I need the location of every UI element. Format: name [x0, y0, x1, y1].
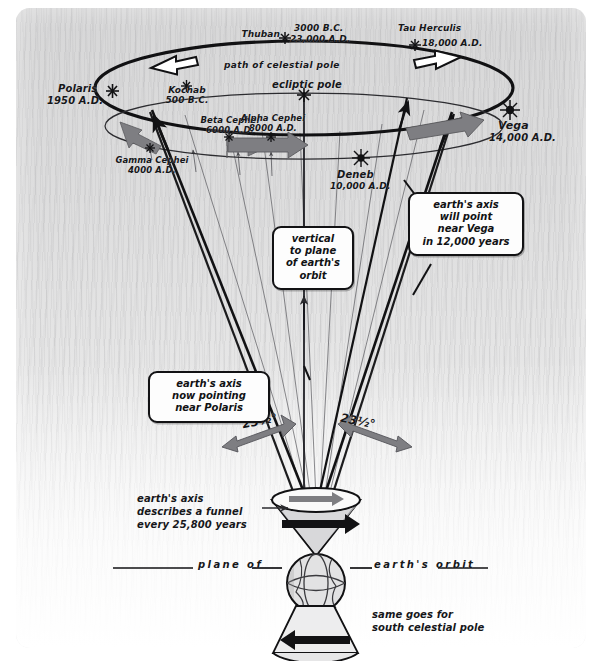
path-direction-arrow-left — [151, 56, 198, 75]
south-pole-note: same goes forsouth celestial pole — [372, 608, 484, 634]
celestial-pole-path-label: path of celestial pole — [224, 61, 340, 71]
ecliptic-pole-label: ecliptic pole — [272, 80, 342, 91]
plane-of-label: plane of — [198, 560, 263, 571]
callout-vega[interactable]: earth's axiswill pointnear Vegain 12,000… — [408, 192, 524, 256]
polaris-star-icon — [106, 84, 119, 98]
alpha-cephei-label: Alpha Cephei — [230, 114, 316, 123]
vega-date: 14,000 A.D. — [489, 133, 556, 144]
south-pole-note-text: same goes forsouth celestial pole — [372, 609, 484, 633]
funnel-note-text: earth's axisdescribes a funnelevery 25,8… — [137, 493, 247, 530]
callout-polaris-text: earth's axisnow pointingnear Polaris — [172, 378, 246, 413]
vega-label: Vega — [498, 120, 529, 132]
earths-orbit-label: earth's orbit — [374, 560, 475, 571]
deneb-star-icon — [352, 149, 370, 167]
vega-star-icon — [500, 100, 520, 120]
thuban-date-2: 23,000 A.D. — [290, 35, 350, 45]
callout-vega-text: earth's axiswill pointnear Vegain 12,000… — [422, 199, 509, 247]
funnel-note: earth's axisdescribes a funnelevery 25,8… — [137, 492, 247, 531]
gamma-cephei-label: Gamma Cephei — [104, 156, 200, 165]
funnel-shape — [272, 488, 360, 556]
callout-vertical[interactable]: verticalto planeof earth'sorbit — [272, 226, 354, 290]
axis-to-tau-herculis-arrowhead — [399, 102, 408, 130]
callout-vertical-text: verticalto planeof earth'sorbit — [286, 233, 340, 281]
tau-herculis-date: 18,000 A.D. — [422, 39, 482, 49]
south-celestial-cone — [273, 606, 358, 661]
gamma-cephei-star-icon — [145, 143, 155, 153]
polaris-label: Polaris — [58, 84, 97, 95]
diagram-page: Thuban 3000 B.C. 23,000 A.D. Tau Herculi… — [0, 0, 602, 661]
deneb-date: 10,000 A.D. — [330, 182, 390, 192]
thuban-date-1: 3000 B.C. — [294, 24, 343, 34]
alpha-cephei-date: 8000 A.D. — [230, 124, 316, 133]
gamma-cephei-date: 4000 A.D. — [104, 166, 200, 175]
thuban-label: Thuban — [196, 30, 280, 40]
tau-herculis-label: Tau Herculis — [398, 24, 461, 34]
deneb-label: Deneb — [337, 170, 374, 181]
path-direction-arrow-right — [414, 51, 461, 70]
polaris-date: 1950 A.D. — [47, 96, 103, 107]
callout-polaris[interactable]: earth's axisnow pointingnear Polaris — [148, 371, 270, 423]
earth-globe — [287, 554, 345, 612]
kochab-date: 500 B.C. — [156, 96, 218, 106]
